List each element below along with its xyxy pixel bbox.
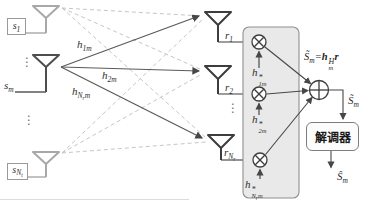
tx-antenna-1 <box>25 6 59 33</box>
label-snt: sNt <box>12 165 22 179</box>
label-weight-1: h*1m <box>252 67 266 87</box>
label-weight-2: h*2m <box>252 114 266 134</box>
demodulator-label: 解调器 <box>315 128 351 145</box>
tx-symbol-box-nt: sNt <box>7 163 28 180</box>
diagram-canvas <box>0 0 377 203</box>
label-r2: r2 <box>225 82 233 95</box>
tx-symbol-box-1: s1 <box>7 18 26 35</box>
label-hnrm: hNrm <box>72 86 90 101</box>
dashed-paths-tx1 <box>62 8 206 138</box>
combined-signal-wire <box>329 90 344 119</box>
multiplier-2 <box>252 87 266 101</box>
mrc-receiver-diagram: s1 ⋮ sm ⋮ sNt h1m h2m hNrm r1 r2 ⋮ rNr h… <box>0 0 377 203</box>
demodulator-block: 解调器 <box>306 122 359 151</box>
label-sm: sm <box>4 80 14 93</box>
multiplier-3 <box>253 153 267 167</box>
ellipsis-tx-lower: ⋮ <box>23 114 35 126</box>
tx-antenna-nt <box>26 152 59 177</box>
solid-paths-txm <box>61 16 202 138</box>
label-combined-signal: S̃m <box>348 95 359 108</box>
ellipsis-tx-upper: ⋮ <box>21 56 33 68</box>
label-rnr: rNr <box>224 147 235 162</box>
combiner-formula: S̃m=hHmr <box>304 52 338 71</box>
label-h2m: h2m <box>102 70 117 83</box>
label-demod-output: Ŝm <box>337 171 348 184</box>
label-s1: s1 <box>13 21 21 33</box>
multiplier-1 <box>252 35 266 49</box>
label-weight-nr: h*Nrm <box>245 179 263 202</box>
label-r1: r1 <box>225 30 233 43</box>
ellipsis-rx: ⋮ <box>227 102 239 114</box>
label-h1m: h1m <box>77 39 92 52</box>
adder <box>310 81 329 100</box>
